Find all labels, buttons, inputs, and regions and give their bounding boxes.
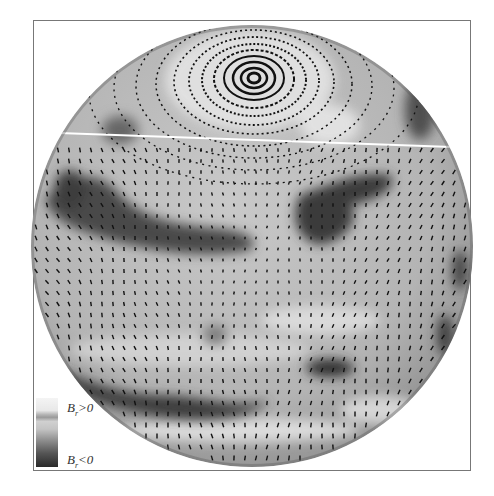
legend-negative-label: Br<0: [67, 452, 93, 470]
legend-colorbar: [36, 398, 58, 467]
sphere-figure: [0, 0, 494, 496]
sphere: [30, 0, 480, 467]
legend-positive-label: Br>0: [67, 400, 93, 418]
